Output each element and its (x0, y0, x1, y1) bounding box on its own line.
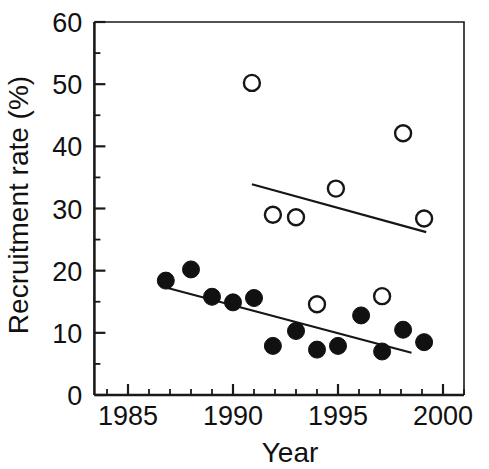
data-point-filled (309, 341, 326, 358)
x-tick-labels-group: 1985199019952000 (98, 401, 473, 431)
y-tick-label: 40 (52, 132, 82, 162)
data-point-open (416, 210, 432, 226)
data-point-filled (264, 337, 281, 354)
filled-circle-series (157, 261, 432, 360)
data-point-filled (157, 272, 174, 289)
data-point-filled (246, 290, 263, 307)
x-axis-title: Year (262, 437, 319, 468)
data-point-filled (204, 288, 221, 305)
x-tick-label: 2000 (413, 401, 473, 431)
y-tick-label: 50 (52, 70, 82, 100)
data-point-open (374, 288, 390, 304)
x-tick-label: 1985 (98, 401, 158, 431)
data-point-open (328, 181, 344, 197)
open-circle-series (244, 75, 432, 312)
data-point-open (244, 75, 260, 91)
y-tick-label: 30 (52, 195, 82, 225)
data-point-filled (225, 294, 242, 311)
data-point-filled (183, 261, 200, 278)
data-point-filled (374, 343, 391, 360)
y-tick-label: 20 (52, 257, 82, 287)
data-point-filled (395, 321, 412, 338)
data-point-filled (353, 307, 370, 324)
y-tick-label: 60 (52, 8, 82, 38)
data-point-filled (288, 322, 305, 339)
data-point-open (395, 125, 411, 141)
y-tick-label: 0 (67, 381, 82, 411)
data-point-open (309, 296, 325, 312)
recruitment-rate-scatter-figure: 1985199019952000 0102030405060 Year Recr… (0, 0, 489, 469)
data-point-open (265, 207, 281, 223)
y-tick-labels-group: 0102030405060 (52, 8, 82, 411)
y-tick-label: 10 (52, 319, 82, 349)
data-point-filled (416, 334, 433, 351)
x-tick-label: 1995 (308, 401, 368, 431)
data-point-filled (330, 337, 347, 354)
data-point-open (288, 209, 304, 225)
plot-canvas: 1985199019952000 0102030405060 Year Recr… (0, 0, 489, 469)
y-axis-title: Recruitment rate (%) (3, 76, 34, 334)
x-tick-label: 1990 (203, 401, 263, 431)
